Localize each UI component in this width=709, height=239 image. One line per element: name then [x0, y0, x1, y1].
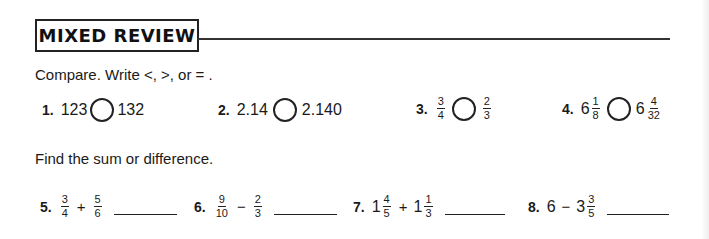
right-value: 2.140	[302, 101, 342, 119]
answer-blank[interactable]	[607, 214, 669, 215]
operator: −	[237, 198, 246, 215]
fraction-b: 1 3	[424, 194, 432, 219]
item-number: 6.	[194, 199, 206, 215]
sum-item-5: 5. 3 4 + 5 6	[40, 194, 177, 219]
sum-item-6: 6. 9 10 − 2 3	[194, 194, 337, 219]
whole-b: 1	[413, 198, 422, 216]
item-number: 1.	[42, 102, 54, 118]
page-edge-shadow	[701, 0, 709, 239]
left-fraction: 3 4	[437, 96, 445, 121]
item-number: 2.	[218, 102, 230, 118]
fraction-b: 5 6	[94, 194, 102, 219]
answer-circle[interactable]	[607, 97, 631, 121]
item-number: 3.	[416, 101, 428, 117]
whole-a: 6	[547, 198, 556, 216]
answer-circle[interactable]	[273, 98, 297, 122]
right-whole: 6	[636, 100, 645, 118]
sum-item-8: 8. 6 − 3 3 5	[528, 194, 669, 219]
fraction-b: 2 3	[254, 194, 262, 219]
section-heading: MIXED REVIEW	[39, 25, 196, 46]
operator: +	[77, 198, 86, 215]
compare-item-4: 4. 6 1 8 6 4 32	[562, 96, 663, 121]
compare-item-3: 3. 3 4 2 3	[416, 96, 493, 121]
operator: −	[562, 198, 571, 215]
item-number: 8.	[528, 199, 540, 215]
left-value: 2.14	[237, 101, 268, 119]
compare-item-1: 1. 123 132	[42, 98, 144, 122]
whole-b: 3	[576, 198, 585, 216]
item-number: 7.	[353, 199, 365, 215]
compare-instruction: Compare. Write <, >, or = .	[35, 66, 213, 83]
answer-circle[interactable]	[90, 98, 114, 122]
operator: +	[399, 198, 408, 215]
whole-a: 1	[372, 198, 381, 216]
item-number: 4.	[562, 101, 574, 117]
left-fraction: 1 8	[592, 96, 600, 121]
right-value: 132	[117, 101, 144, 119]
item-number: 5.	[40, 199, 52, 215]
sum-item-7: 7. 1 4 5 + 1 1 3	[353, 194, 505, 219]
fraction-a: 9 10	[215, 194, 229, 219]
heading-rule	[198, 38, 670, 40]
sum-instruction: Find the sum or difference.	[35, 150, 213, 167]
left-value: 123	[61, 101, 88, 119]
fraction-a: 3 4	[61, 194, 69, 219]
answer-blank[interactable]	[274, 214, 337, 215]
answer-blank[interactable]	[445, 214, 505, 215]
answer-blank[interactable]	[114, 214, 177, 215]
section-heading-box: MIXED REVIEW	[35, 19, 199, 52]
right-fraction: 2 3	[483, 96, 491, 121]
fraction-a: 4 5	[383, 194, 391, 219]
answer-circle[interactable]	[452, 97, 476, 121]
right-fraction: 4 32	[647, 96, 661, 121]
fraction-b: 3 5	[587, 194, 595, 219]
left-whole: 6	[581, 100, 590, 118]
compare-item-2: 2. 2.14 2.140	[218, 98, 342, 122]
